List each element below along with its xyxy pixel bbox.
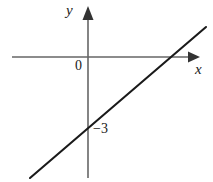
origin-label: 0 <box>75 59 82 73</box>
graph-figure: y x 0 −3 <box>0 0 213 182</box>
x-axis-label: x <box>195 62 202 77</box>
coordinate-plane-svg <box>0 0 213 182</box>
y-axis-label: y <box>66 3 73 18</box>
plotted-line <box>30 27 206 178</box>
y-axis-arrow-icon <box>83 6 94 20</box>
y-intercept-tick-label: −3 <box>93 122 108 136</box>
y-axis <box>83 6 94 178</box>
